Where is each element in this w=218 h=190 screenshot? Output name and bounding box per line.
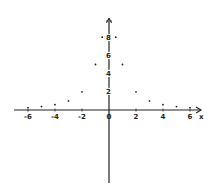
tick-labels: -6-4-202462468 (24, 34, 192, 121)
data-point (106, 20, 108, 22)
data-point (68, 100, 70, 102)
data-point (176, 106, 178, 108)
data-point (135, 91, 137, 93)
data-point (122, 64, 124, 66)
x-tick-label: -6 (24, 113, 32, 121)
y-tick-label: 6 (106, 52, 111, 60)
data-point (149, 100, 151, 102)
data-point (110, 20, 112, 22)
y-tick-label: 2 (106, 88, 111, 96)
data-point (81, 91, 83, 93)
data-point (95, 64, 97, 66)
x-tick-label: 2 (134, 113, 139, 121)
x-tick-label: 4 (161, 113, 166, 121)
axes (14, 18, 201, 183)
data-point (162, 104, 164, 106)
data-point (27, 107, 29, 109)
data-point (189, 107, 191, 109)
y-tick-label: 8 (106, 34, 111, 42)
x-tick-label: -4 (51, 113, 59, 121)
data-point (101, 36, 103, 38)
y-tick-label: 4 (106, 70, 111, 78)
x-tick-label: 6 (188, 113, 193, 121)
x-axis-label: x (199, 113, 204, 121)
data-point (41, 106, 43, 108)
x-tick-label: -2 (78, 113, 86, 121)
scatter-chart: -6-4-202462468 x (0, 0, 218, 190)
data-point (115, 36, 117, 38)
data-point (54, 104, 56, 106)
x-tick-label: 0 (107, 113, 112, 121)
